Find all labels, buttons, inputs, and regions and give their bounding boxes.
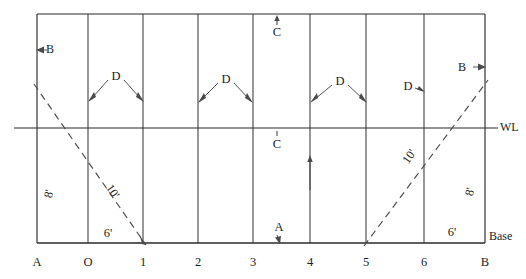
axis-label-A: A [32, 255, 41, 269]
spacing-label-1: D [111, 69, 120, 83]
axis-label-B: B [481, 255, 489, 269]
breadth-right-arrow [473, 64, 486, 71]
station-4-up-arrow [307, 155, 312, 190]
spacing-arrow-1 [88, 80, 144, 102]
waterline-label: WL [500, 120, 519, 134]
spacing-label-2: D [221, 72, 230, 86]
centerline-mid-label: C [273, 137, 281, 151]
spacing-label-4: D [403, 79, 412, 93]
centerline-top-tick [274, 15, 279, 25]
axis-label-4: 4 [307, 255, 314, 269]
axis-label-1: 1 [140, 255, 146, 269]
centerline-top-label: C [273, 25, 281, 39]
spacing-2-left-arrowhead [198, 93, 206, 103]
halfbreadth-right-label: 6' [448, 225, 457, 239]
diagonal-left-label: 10' [103, 181, 123, 201]
axis-label-5: 5 [363, 255, 369, 269]
breadth-right-label: B [458, 60, 466, 74]
ship-station-grid-diagram: B B D D D D C C A 8' 8' 6' 6' 10' 10' WL… [0, 0, 526, 279]
diagonal-left-10ft [34, 84, 146, 245]
station-4-arrowhead [307, 155, 312, 162]
aft-marker-label: A [274, 220, 283, 234]
station-axis-labels: A O 1 2 3 4 5 6 B [32, 255, 489, 269]
axis-label-3: 3 [250, 255, 256, 269]
halfbreadth-left-label: 6' [104, 226, 113, 240]
centerline-top-arrowhead [274, 15, 279, 21]
depth-left-label: 8' [41, 188, 56, 199]
depth-right-label: 8' [462, 186, 477, 197]
spacing-2-right-arrowhead [245, 93, 253, 103]
spacing-1-left-arrowhead [88, 92, 96, 102]
spacing-label-3: D [335, 74, 344, 88]
breadth-left-label: B [46, 42, 54, 56]
diagonal-right-label: 10' [399, 146, 419, 166]
axis-label-6: 6 [421, 255, 427, 269]
diagonal-right-10ft [364, 80, 488, 246]
diagram-canvas: B B D D D D C C A 8' 8' 6' 6' 10' 10' WL… [0, 0, 526, 279]
axis-label-O: O [83, 255, 92, 269]
spacing-arrow-2 [198, 83, 253, 103]
baseline-label: Base [489, 229, 512, 243]
spacing-3-left-arrowhead [310, 93, 318, 103]
axis-label-2: 2 [195, 255, 201, 269]
